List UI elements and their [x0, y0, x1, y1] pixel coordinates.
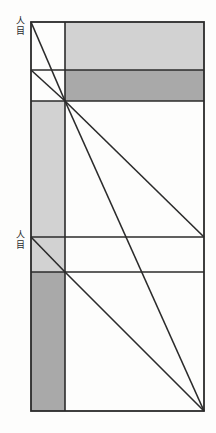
ray-upper-vp-to-right-mid [65, 101, 204, 237]
left-column-dark [31, 272, 65, 411]
ray-upper-vp-to-bottom-right [65, 101, 204, 411]
left-column-light [31, 101, 65, 237]
upper-label-char-2: 目 [14, 26, 26, 36]
lower-eye-level-label: 人 目 [14, 230, 26, 250]
lower-label-char-2: 目 [14, 240, 26, 250]
upper-label-char-1: 人 [14, 16, 26, 26]
lower-label-char-1: 人 [14, 230, 26, 240]
upper-dark-band [65, 70, 204, 101]
diagram-canvas: 人 目 人 目 [0, 0, 216, 433]
perspective-grid-svg [0, 0, 216, 433]
ray-leftsplit-to-upper-vp [31, 70, 65, 101]
ray-lower-vp-to-bottom-right [65, 272, 204, 411]
upper-light-band [65, 22, 204, 70]
upper-eye-level-label: 人 目 [14, 16, 26, 36]
ray-topleft-to-upper-vp [31, 22, 65, 101]
